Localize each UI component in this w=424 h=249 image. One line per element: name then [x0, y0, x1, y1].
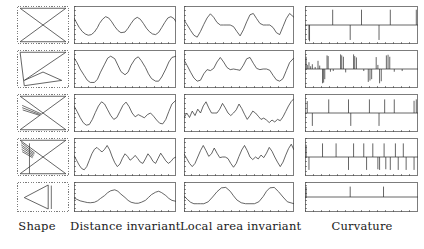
column-captions: Shape Distance invariant Local area inva…: [0, 216, 424, 242]
caption-curvature: Curvature: [300, 216, 424, 236]
panel-shape-row-3: [17, 94, 69, 132]
panel-local-area-invariant-row-1: [184, 6, 294, 44]
caption-shape: Shape: [6, 216, 68, 236]
panel-distance-invariant-row-2: [74, 50, 176, 88]
invariant-signatures-figure: Shape Distance invariant Local area inva…: [0, 0, 424, 249]
caption-local-area-invariant: Local area invariant: [180, 216, 298, 236]
panel-local-area-invariant-row-2: [184, 50, 294, 88]
panel-distance-invariant-row-5: [74, 182, 176, 212]
panel-shape-row-2: [17, 50, 69, 88]
panel-distance-invariant-row-4: [74, 138, 176, 176]
panel-distance-invariant-row-1: [74, 6, 176, 44]
panel-local-area-invariant-row-3: [184, 94, 294, 132]
panel-local-area-invariant-row-4: [184, 138, 294, 176]
panel-shape-row-5: [17, 182, 69, 212]
panel-distance-invariant-row-3: [74, 94, 176, 132]
panel-curvature-row-3: [305, 94, 418, 132]
panel-curvature-row-2: [305, 50, 418, 88]
panel-curvature-row-1: [305, 6, 418, 44]
caption-distance-invariant: Distance invariant: [70, 216, 178, 236]
panel-shape-row-4: [17, 138, 69, 176]
panel-grid: [0, 0, 424, 215]
panel-curvature-row-5: [305, 182, 418, 212]
panel-shape-row-1: [17, 6, 69, 44]
panel-local-area-invariant-row-5: [184, 182, 294, 212]
panel-curvature-row-4: [305, 138, 418, 176]
